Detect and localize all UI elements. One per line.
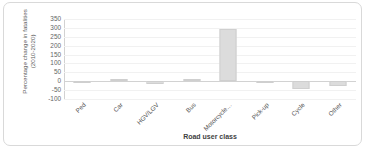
- x-axis-label-slot: Car: [101, 99, 138, 133]
- y-axis-tick-label: 200: [38, 42, 61, 48]
- bar-slot: [101, 19, 138, 99]
- y-axis-tick-label: -50: [38, 87, 61, 93]
- bar-series: [64, 19, 356, 99]
- x-axis-tick-label: Pick-up: [250, 101, 270, 121]
- bar-slot: [210, 19, 247, 99]
- y-axis-title-line-2: (2010-2020): [29, 0, 37, 110]
- bar: [293, 81, 310, 89]
- x-axis-label-slot: HGV/LGV: [137, 99, 174, 133]
- y-axis-tick-labels: 350300250200150100500-50-100: [38, 19, 61, 99]
- x-axis-tick-label: Bus: [184, 101, 197, 114]
- y-axis-tick-label: 250: [38, 34, 61, 40]
- bar: [256, 81, 273, 83]
- x-axis-tick-label: Other: [327, 101, 343, 117]
- bar-slot: [174, 19, 211, 99]
- y-axis-tick-label: 100: [38, 60, 61, 66]
- bar-slot: [283, 19, 320, 99]
- plot-area: [64, 19, 356, 99]
- y-axis-tick-label: 0: [38, 78, 61, 84]
- x-axis-tick-labels: PedCarHGV/LGVBusMotorcycle…Pick-upCycleO…: [64, 99, 356, 133]
- x-axis-tick-label: Ped: [74, 101, 87, 114]
- bar-slot: [137, 19, 174, 99]
- bar-slot: [247, 19, 284, 99]
- y-axis-tick-label: 150: [38, 51, 61, 57]
- bar: [220, 29, 237, 81]
- chart-screenshot: Percentage change in fatalities (2010-20…: [0, 0, 367, 151]
- bar: [329, 81, 346, 86]
- bar: [74, 81, 91, 83]
- bar: [183, 79, 200, 81]
- x-axis-tick-label: HGV/LGV: [135, 101, 160, 126]
- y-axis-title: Percentage change in fatalities (2010-20…: [21, 0, 38, 110]
- bar: [110, 79, 127, 81]
- x-axis-tick-label: Car: [112, 101, 124, 113]
- y-axis-tick-label: -100: [38, 96, 61, 102]
- y-axis-tick-label: 300: [38, 25, 61, 31]
- y-axis-tick-label: 350: [38, 16, 61, 22]
- x-axis-label-slot: Pick-up: [247, 99, 284, 133]
- x-axis-tick-label: Cycle: [290, 101, 306, 117]
- bar: [147, 81, 164, 84]
- chart-frame: Percentage change in fatalities (2010-20…: [3, 2, 362, 146]
- x-axis-label-slot: Motorcycle…: [210, 99, 247, 133]
- x-axis-title: Road user class: [64, 133, 356, 140]
- y-axis-tick-label: 50: [38, 69, 61, 75]
- y-axis-title-line-1: Percentage change in fatalities: [21, 0, 29, 110]
- x-axis-label-slot: Ped: [64, 99, 101, 133]
- x-axis-label-slot: Other: [320, 99, 357, 133]
- bar-slot: [320, 19, 357, 99]
- x-axis-label-slot: Cycle: [283, 99, 320, 133]
- bar-slot: [64, 19, 101, 99]
